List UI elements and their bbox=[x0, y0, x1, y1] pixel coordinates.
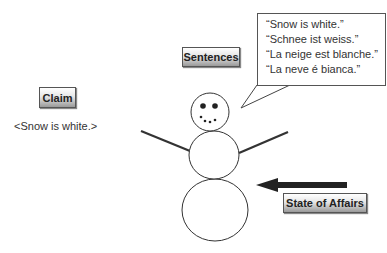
sentence-german: “Schnee ist weiss.” bbox=[266, 32, 385, 47]
sentences-callout: “Snow is white.” “Schnee ist weiss.” “La… bbox=[257, 13, 386, 86]
right-eye bbox=[212, 103, 218, 109]
left-arm bbox=[141, 131, 190, 151]
snowman-head bbox=[191, 93, 229, 131]
snowman-bottom bbox=[182, 179, 248, 241]
sentences-label: Sentences bbox=[182, 47, 240, 67]
right-arm bbox=[239, 132, 288, 153]
snowman-body bbox=[189, 131, 239, 179]
speech-tail bbox=[241, 85, 290, 108]
state-of-affairs-label: State of Affairs bbox=[283, 193, 367, 213]
arrow-left-icon bbox=[256, 178, 347, 192]
claim-proposition: <Snow is white.> bbox=[14, 120, 97, 132]
sentence-english: “Snow is white.” bbox=[266, 17, 385, 32]
left-eye bbox=[200, 103, 206, 109]
sentence-italian: “La neve é bianca.” bbox=[266, 62, 385, 77]
sentence-french: “La neige est blanche.” bbox=[266, 47, 385, 62]
claim-label: Claim bbox=[39, 87, 76, 108]
